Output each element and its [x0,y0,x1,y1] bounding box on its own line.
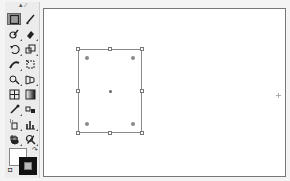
rotate-icon [9,44,20,55]
paintbrush-tool-button[interactable] [23,13,37,25]
width-icon [9,59,20,70]
center-point [109,90,112,93]
tools-panel: ▲ ⁄ [5,2,40,178]
gradient-icon [25,89,36,100]
width-tool-button[interactable] [7,58,21,70]
scale-icon [25,44,36,55]
handle-bottom-right[interactable] [140,131,144,135]
free-transform-tool-button[interactable] [23,58,37,70]
eyedropper-icon [9,104,20,115]
hand-icon [9,134,20,145]
corner-widget-top-right[interactable] [131,56,135,60]
handle-bottom-left[interactable] [76,131,80,135]
blend-icon [25,104,36,115]
swap-fill-stroke-icon[interactable]: ↷ [32,146,38,154]
stroke-inner [24,162,32,170]
corner-widget-bottom-left[interactable] [85,122,89,126]
panel-grip[interactable]: ▲ ⁄ [15,3,29,8]
shape-builder-tool-button[interactable] [7,73,21,85]
default-colors-icon[interactable]: ◘ [8,166,12,173]
eraser-icon [25,29,36,40]
rectangle-tool-button[interactable] [7,13,21,25]
mesh-tool-button[interactable] [7,88,21,100]
eyedropper-tool-button[interactable] [7,103,21,115]
symbol-sprayer-tool-button[interactable] [7,118,21,130]
column-graph-tool-button[interactable] [23,118,37,130]
perspective-grid-icon [25,74,36,85]
free-transform-icon [25,59,36,70]
hand-tool-button[interactable] [7,133,21,145]
perspective-grid-tool-button[interactable] [23,73,37,85]
crosshair-cursor-icon [276,93,281,98]
eraser-tool-button[interactable] [23,28,37,40]
cropped-text: ··· ·· · ········ ·········· · ········ … [40,0,290,4]
zoom-icon [25,134,36,145]
symbol-sprayer-icon [9,119,20,130]
blend-tool-button[interactable] [23,103,37,115]
mesh-icon [9,89,20,100]
rectangle-shape-selection[interactable] [78,49,142,133]
handle-top-right[interactable] [140,47,144,51]
blob-brush-tool-button[interactable] [7,28,21,40]
rotate-tool-button[interactable] [7,43,21,55]
shape-builder-icon [9,74,20,85]
gradient-tool-button[interactable] [23,88,37,100]
cropped-top-text: ··· ·· · ········ ·········· · ········ … [40,0,290,4]
handle-middle-right[interactable] [140,89,144,93]
corner-widget-bottom-right[interactable] [131,122,135,126]
blob-brush-icon [9,29,20,40]
zoom-tool-button[interactable] [23,133,37,145]
paintbrush-icon [25,14,36,25]
handle-middle-left[interactable] [76,89,80,93]
corner-widget-top-left[interactable] [85,56,89,60]
column-graph-icon [25,119,36,130]
scale-tool-button[interactable] [23,43,37,55]
rectangle-icon [9,14,20,25]
stroke-color-swatch[interactable] [19,157,37,175]
artboard-canvas[interactable] [43,8,286,177]
handle-top-center[interactable] [108,47,112,51]
handle-bottom-center[interactable] [108,131,112,135]
handle-top-left[interactable] [76,47,80,51]
